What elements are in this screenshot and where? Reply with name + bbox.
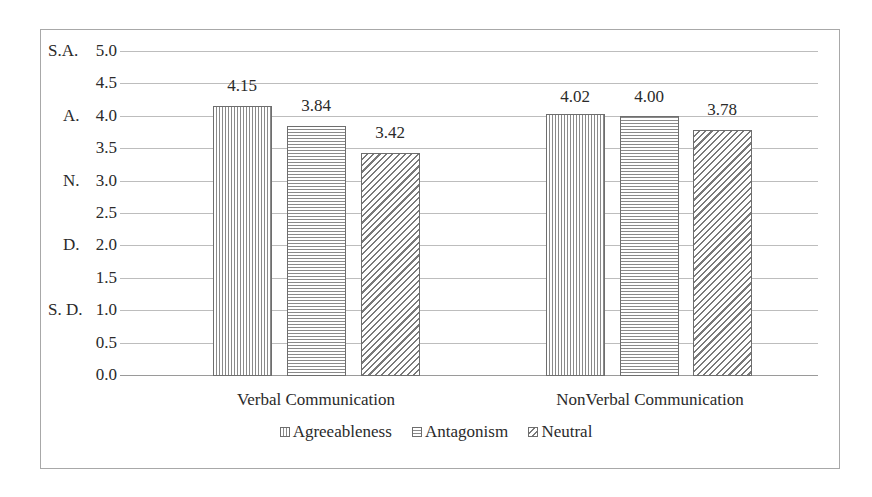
likert-label-strongly-agree: S.A. bbox=[48, 42, 90, 60]
vertical-pattern-swatch-icon bbox=[280, 427, 290, 437]
value-label: 3.42 bbox=[355, 124, 425, 142]
horizontal-pattern-swatch-icon bbox=[412, 427, 422, 437]
legend-label: Agreeableness bbox=[293, 423, 392, 441]
bar-verbal-neutral bbox=[361, 153, 420, 376]
bar-verbal-agreeableness bbox=[213, 106, 272, 376]
legend-item-agreeableness: Agreeableness bbox=[280, 423, 392, 441]
bar-nonverbal-agreeableness bbox=[546, 114, 605, 376]
gridline-5-0 bbox=[120, 51, 818, 52]
value-label: 3.78 bbox=[687, 101, 757, 119]
likert-label-disagree: D. bbox=[63, 236, 105, 254]
bar-nonverbal-neutral bbox=[693, 130, 752, 376]
value-label: 4.15 bbox=[207, 77, 277, 95]
likert-label-strongly-disagree: S. D. bbox=[48, 301, 90, 319]
chart-legend: Agreeableness Antagonism Neutral bbox=[0, 423, 872, 441]
likert-label-neutral: N. bbox=[63, 172, 105, 190]
likert-label-agree: A. bbox=[63, 107, 105, 125]
legend-label: Antagonism bbox=[425, 423, 508, 441]
y-tick: 0.0 bbox=[85, 366, 117, 384]
legend-label: Neutral bbox=[541, 423, 592, 441]
y-tick: 2.5 bbox=[85, 204, 117, 222]
y-tick: 4.5 bbox=[85, 74, 117, 92]
value-label: 4.02 bbox=[540, 88, 610, 106]
legend-item-neutral: Neutral bbox=[528, 423, 592, 441]
category-label-nonverbal: NonVerbal Communication bbox=[520, 391, 780, 409]
value-label: 3.84 bbox=[281, 97, 351, 115]
bar-verbal-antagonism bbox=[287, 126, 346, 376]
diagonal-pattern-swatch-icon bbox=[528, 427, 538, 437]
value-label: 4.00 bbox=[614, 88, 684, 106]
bar-nonverbal-antagonism bbox=[620, 116, 679, 376]
y-tick: 3.5 bbox=[85, 139, 117, 157]
y-tick: 1.5 bbox=[85, 269, 117, 287]
y-tick: 0.5 bbox=[85, 334, 117, 352]
legend-item-antagonism: Antagonism bbox=[412, 423, 508, 441]
category-label-verbal: Verbal Communication bbox=[206, 391, 426, 409]
